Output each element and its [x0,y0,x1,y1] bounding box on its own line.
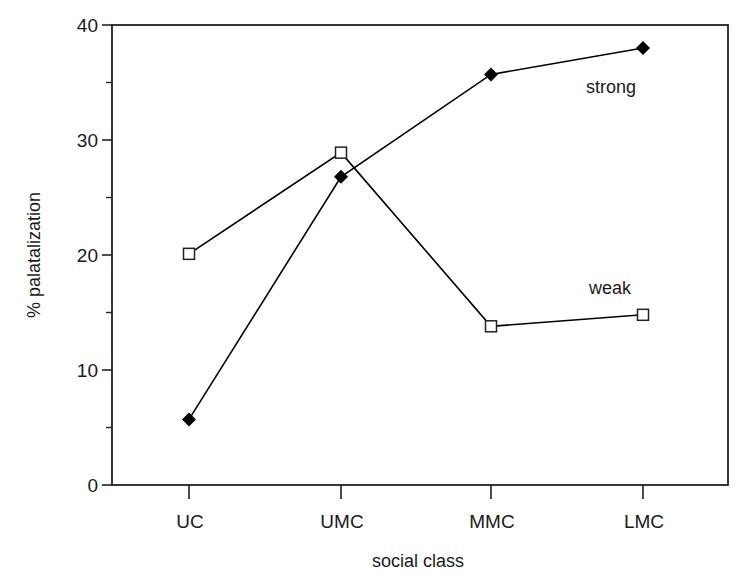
diamond-marker-icon [484,67,498,81]
y-tick-label: 30 [77,130,98,151]
diamond-marker-icon [334,170,348,184]
square-marker-icon [638,309,649,320]
series-line-weak [189,153,643,327]
y-axis: 010203040 [77,15,112,496]
x-tick-label: LMC [624,511,664,532]
square-marker-icon [184,248,195,259]
diamond-marker-icon [182,412,196,426]
square-marker-icon [336,147,347,158]
series-label-weak: weak [588,278,632,298]
series-line-strong [189,48,643,419]
square-marker-icon [486,321,497,332]
x-tick-label: UMC [320,511,363,532]
y-axis-title: % palatalization [24,192,44,318]
x-tick-label: MMC [469,511,514,532]
x-axis-title: social class [372,551,464,571]
series-label-strong: strong [586,77,636,97]
series-layer [182,41,650,426]
x-tick-label: UC [176,511,203,532]
y-tick-label: 10 [77,360,98,381]
y-tick-label: 0 [87,475,98,496]
line-chart: 010203040 UCUMCMMCLMC % palatalization s… [0,0,738,582]
y-tick-label: 40 [77,15,98,36]
y-tick-label: 20 [77,245,98,266]
diamond-marker-icon [636,41,650,55]
x-axis: UCUMCMMCLMC [176,485,664,532]
